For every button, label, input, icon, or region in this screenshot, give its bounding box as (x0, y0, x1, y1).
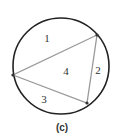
circle-triangle-figure: 1 2 3 4 (c) (0, 0, 114, 140)
diagram-canvas: 1 2 3 4 (c) (0, 0, 114, 140)
region-label-2: 2 (95, 64, 101, 76)
vertex-top-right (95, 33, 98, 36)
inscribed-triangle (13, 35, 97, 103)
region-label-3: 3 (41, 93, 47, 105)
vertex-bottom (85, 101, 88, 104)
vertex-left (11, 73, 14, 76)
region-label-1: 1 (44, 32, 50, 44)
figure-caption: (c) (56, 122, 68, 133)
region-label-4: 4 (63, 65, 69, 77)
